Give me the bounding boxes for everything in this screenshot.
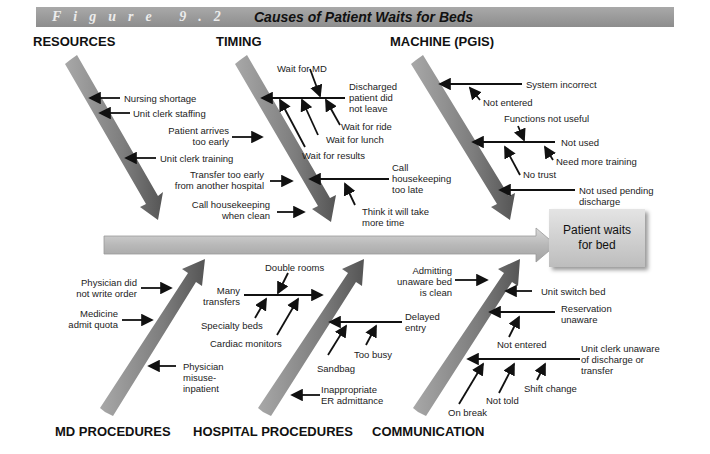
cause-label: No trust [523,169,557,180]
cause-label: transfers [203,296,240,307]
cause-label: Wait for results [302,150,365,161]
cause-label: patient did [349,92,393,103]
cause-label: Delayed [405,311,440,322]
cause-label: Physician did [81,277,137,288]
cause-label: is clean [420,287,452,298]
cause-label: Call [392,162,408,173]
category-machine: MACHINE (PGIS) [390,34,494,49]
cause-label: Call housekeeping [192,199,270,210]
category-hospital-procedures: HOSPITAL PROCEDURES [193,424,353,439]
cause-label: unaware bed [397,276,452,287]
cause-label: unaware [561,314,597,325]
cause-label: inpatient [183,383,219,394]
cause-label: Wait for lunch [326,134,384,145]
cause-label: more time [362,217,404,228]
cause-label: System incorrect [526,79,597,90]
cause-label: Physician [183,361,224,372]
cause-label: not leave [349,103,388,114]
category-timing: TIMING [216,34,262,49]
cause-label: On break [448,407,487,418]
cause-label: discharge [579,196,620,207]
effect-box: Patient waits for bed [549,209,645,267]
cause-label: ER admittance [321,395,383,406]
cause-label: Patient arrives [168,125,229,136]
cause-label: Not told [486,395,519,406]
cause-label: Nursing shortage [124,93,196,104]
cause-label: Unit clerk unaware [581,343,660,354]
cause-label: not write order [76,288,137,299]
effect-line-2: for bed [563,238,631,253]
cause-label: Need more training [556,156,637,167]
cause-label: Specialty beds [201,320,263,331]
spine-arrow [104,228,556,262]
cause-label: of discharge or [581,354,644,365]
cause-label: Not entered [483,97,533,108]
cause-label: Wait for MD [277,63,327,74]
bone-resources [65,55,163,220]
category-communication: COMMUNICATION [372,424,484,439]
cause-label: Sandbag [317,363,355,374]
effect-line-1: Patient waits [563,223,631,238]
cause-label: Admitting [412,265,452,276]
cause-label: Unit clerk training [160,153,233,164]
cause-label: Double rooms [265,262,324,273]
cause-label: misuse- [183,372,216,383]
cause-label: Think it will take [362,206,429,217]
category-md-procedures: MD PROCEDURES [55,424,171,439]
cause-label: Not used pending [579,185,653,196]
bone-timing [235,55,336,222]
bone-machine [411,55,515,220]
cause-label: Functions not useful [504,113,589,124]
cause-label: admit quota [68,319,118,330]
cause-label: Discharged [349,81,397,92]
cause-label: Many [217,285,240,296]
category-resources: RESOURCES [33,34,116,49]
cause-label: too early [193,136,230,147]
cause-label: when clean [221,210,270,221]
cause-label: Unit switch bed [541,286,605,297]
cause-label: transfer [581,365,613,376]
cause-label: from another hospital [175,180,264,191]
cause-label: Reservation [561,303,612,314]
cause-label: entry [405,322,426,333]
cause-label: Inappropriate [321,384,377,395]
cause-label: Unit clerk staffing [133,108,206,119]
cause-label: Shift change [524,383,577,394]
cause-label: housekeeping [392,173,451,184]
cause-label: Cardiac monitors [210,338,282,349]
cause-label: Medicine [80,308,118,319]
cause-label: Not entered [497,339,547,350]
cause-label: Not used [561,137,599,148]
cause-label: too late [392,184,423,195]
cause-label: Transfer too early [190,169,264,180]
cause-label: Too busy [354,349,392,360]
cause-label: Wait for ride [341,121,392,132]
